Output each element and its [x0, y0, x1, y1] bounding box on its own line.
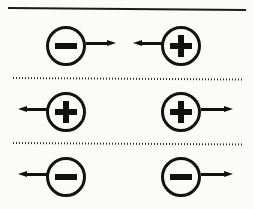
charge-circle-positive	[161, 92, 201, 132]
force-arrow-right-icon	[86, 40, 116, 47]
dotted-rule-1	[12, 77, 242, 81]
charge-circle-negative	[46, 26, 86, 66]
row-attraction	[0, 17, 253, 75]
charge-unit-negative-right	[131, 152, 235, 202]
charge-unit-negative-left	[18, 152, 122, 202]
force-arrow-left-icon	[133, 40, 163, 47]
top-solid-rule	[8, 7, 246, 11]
force-arrow-left-icon	[18, 171, 48, 178]
force-arrow-right-icon	[201, 106, 233, 113]
charge-unit-negative-left	[18, 21, 122, 71]
minus-sign-icon	[49, 29, 83, 63]
charge-circle-positive	[161, 26, 201, 66]
charge-circle-positive	[46, 92, 86, 132]
charge-circle-negative	[161, 157, 201, 197]
row-repulsion-negative	[0, 148, 253, 206]
row-repulsion-positive	[0, 83, 253, 141]
charge-unit-positive-right	[131, 21, 235, 71]
plus-sign-icon	[164, 95, 198, 129]
charge-unit-positive-left	[18, 87, 122, 137]
minus-sign-icon	[49, 160, 83, 194]
plus-sign-icon	[164, 29, 198, 63]
charge-circle-negative	[46, 157, 86, 197]
minus-sign-icon	[164, 160, 198, 194]
force-arrow-right-icon	[201, 171, 233, 178]
charge-unit-positive-right	[131, 87, 235, 137]
force-arrow-left-icon	[18, 106, 48, 113]
charge-interaction-figure	[0, 0, 253, 209]
plus-sign-icon	[49, 95, 83, 129]
dotted-rule-2	[12, 142, 242, 146]
